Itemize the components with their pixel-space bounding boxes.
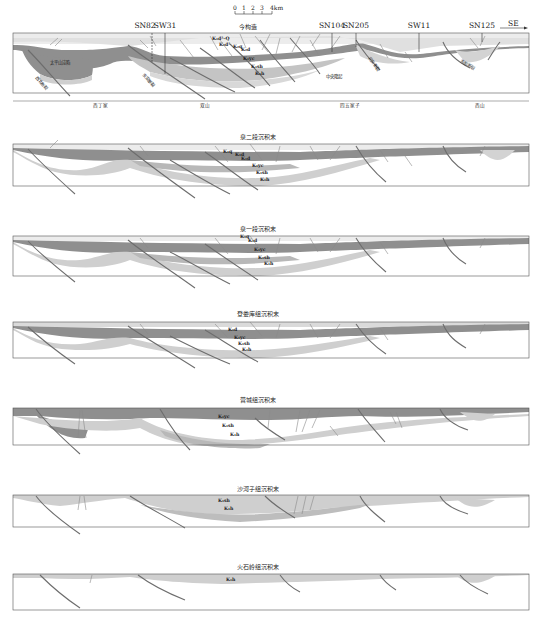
formation-label: K₁h <box>260 177 270 182</box>
formation-label: K₁sh <box>222 423 235 428</box>
panel-title: 泉一段沉积末 <box>240 225 276 233</box>
well-label-sn82: SN82 <box>134 21 155 30</box>
scale-unit: 4km <box>270 4 283 11</box>
location-label: 西丁家 <box>93 102 108 109</box>
panel-title: 泉二段沉积末 <box>240 133 276 141</box>
panel-q2: 泉二段沉积末 K₁q K₁d K₁d K₁yc K₁sh K₁h <box>13 133 529 198</box>
well-label-sw11: SW11 <box>408 21 430 30</box>
panel-shz: 沙河子组沉积末 K₁sh K₁h <box>13 485 529 534</box>
well-label-sn205: SN205 <box>343 21 369 30</box>
structure-label-central-uplift: 中央隆起 <box>326 73 343 80</box>
structure-label-taipingshan: 太平山洼陷 <box>50 59 70 66</box>
formation-label: K₁d²–Q <box>212 36 230 41</box>
panel-title: 火石岭组沉积末 <box>237 563 279 571</box>
well-label-sw31: SW31 <box>154 21 176 30</box>
well-label-sn104: SN104 <box>319 21 345 30</box>
panel-title: 营城组沉积末 <box>240 396 276 404</box>
panel-present: 0 1 2 3 4km 今构造 SN82 SW31 SN104 SN205 SW… <box>13 4 529 109</box>
panel-q1: 泉一段沉积末 K₁q K₁d K₁yc K₁sh K₁h <box>13 225 529 288</box>
panel-hsl: 火石岭组沉积末 K₁h <box>13 563 529 610</box>
formation-label: K₁d <box>248 238 258 243</box>
location-label: 四五家子 <box>340 102 360 108</box>
panel-top-label: 今构造 <box>239 23 257 31</box>
formation-label: K₁q <box>223 149 233 154</box>
well-label-sn125: SN125 <box>469 21 495 30</box>
cross-section-figure: 0 1 2 3 4km 今构造 SN82 SW31 SN104 SN205 SW… <box>0 0 545 620</box>
direction-arrow: SE <box>500 19 528 30</box>
panel-title: 沙河子组沉积末 <box>237 485 279 493</box>
formation-label: K₁d <box>241 156 251 161</box>
location-label: 双山 <box>200 102 210 109</box>
scale-bar: 0 1 2 3 4km <box>233 4 283 14</box>
formation-label: K₁h <box>226 577 236 582</box>
panel-yc: 营城组沉积末 K₁yc K₁sh K₁h <box>13 396 529 454</box>
formation-label: K₁h <box>255 71 265 76</box>
formation-label: K₁h <box>264 261 274 266</box>
formation-label: K₁h <box>230 432 240 437</box>
formation-label: K₁sh <box>256 170 269 175</box>
formation-label: K₁d <box>228 327 238 332</box>
location-label: 西山 <box>475 102 485 109</box>
formation-label: K₂d <box>241 47 251 52</box>
scale-tick: 2 <box>251 4 255 11</box>
formation-label: K₁sh <box>258 255 271 260</box>
scale-tick: 0 <box>233 4 237 11</box>
formation-label: K₁sh <box>238 341 251 346</box>
formation-label: K₁h <box>242 347 252 352</box>
panel-dls: 登娄库组沉积末 K₁d K₁yc K₁sh K₁h <box>13 310 529 368</box>
scale-tick: 3 <box>260 4 264 11</box>
formation-label: K₁sh <box>218 498 231 503</box>
scale-tick: 1 <box>242 4 246 11</box>
panel-title: 登娄库组沉积末 <box>237 310 279 318</box>
formation-label: K₁sh <box>251 64 264 69</box>
direction-label: SE <box>508 19 519 28</box>
formation-label: K₂d¹ <box>219 42 230 47</box>
formation-label: K₁h <box>224 506 234 511</box>
